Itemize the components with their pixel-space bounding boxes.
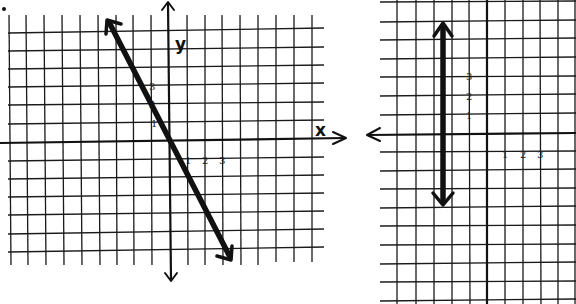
left-x-axis-label: x xyxy=(315,120,326,140)
right-y-tick-3: 3 xyxy=(466,71,472,82)
left-x-tick-3: 3 xyxy=(219,155,225,166)
right-x-tick-1: 1 xyxy=(502,149,508,160)
left-x-tick-2: 2 xyxy=(202,155,208,166)
right-x-axis xyxy=(368,133,576,135)
figure: y x 1 2 3 3 2 1 xyxy=(0,0,576,304)
right-y-tick-1: 1 xyxy=(466,110,472,121)
right-grid xyxy=(380,0,576,304)
left-y-tick-3: 3 xyxy=(149,81,155,92)
left-graph: y x 1 2 3 3 2 1 xyxy=(0,2,346,281)
right-x-tick-2: 2 xyxy=(520,149,526,160)
left-y-axis-label: y xyxy=(175,34,186,54)
left-x-tick-1: 1 xyxy=(185,155,191,166)
right-x-tick-3: 3 xyxy=(537,149,543,160)
right-y-tick-2: 2 xyxy=(466,91,472,102)
bullet-dot xyxy=(2,7,6,11)
right-graph: 1 2 3 3 2 1 xyxy=(367,0,576,304)
